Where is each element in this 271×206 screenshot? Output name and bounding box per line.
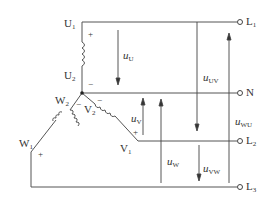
winding-V xyxy=(95,104,115,117)
label-V1: V1 xyxy=(120,143,131,156)
terminal-L2 xyxy=(238,139,243,144)
label-U1: U1 xyxy=(64,18,75,31)
sign-plus-V: + xyxy=(133,128,138,137)
sign-minus-V: − xyxy=(97,96,102,105)
label-W1: W1 xyxy=(19,138,33,151)
sign-minus-U: − xyxy=(88,80,93,89)
sign-minus-W: − xyxy=(76,100,81,109)
arrow-uW xyxy=(159,99,163,106)
circuit-diagram xyxy=(0,0,271,206)
terminal-N xyxy=(238,91,243,96)
label-uVW: uVW xyxy=(203,163,220,176)
label-L3: L3 xyxy=(246,181,256,194)
label-L1: L1 xyxy=(246,16,256,29)
label-uUV: uUV xyxy=(203,72,219,85)
terminal-L1 xyxy=(238,20,243,25)
arrow-uVW xyxy=(197,174,201,181)
arrow-uUV xyxy=(195,124,199,131)
winding-U xyxy=(82,42,85,66)
label-W2: W2 xyxy=(55,95,69,108)
star-point xyxy=(80,91,84,95)
sign-plus-W: + xyxy=(38,150,43,159)
label-uWU: uWU xyxy=(235,116,252,129)
terminal-L3 xyxy=(238,185,243,190)
label-U2: U2 xyxy=(64,70,75,83)
label-N: N xyxy=(246,87,254,98)
label-uV: uV xyxy=(131,113,142,126)
label-uU: uU xyxy=(123,50,134,63)
label-uW: uW xyxy=(167,156,179,169)
arrow-uV xyxy=(141,98,145,105)
arrow-uU xyxy=(116,78,120,85)
sign-plus-U: + xyxy=(88,30,93,39)
label-V2: V2 xyxy=(84,104,95,117)
winding-W xyxy=(70,110,79,126)
label-L2: L2 xyxy=(246,135,256,148)
arrow-uWU xyxy=(227,33,231,40)
